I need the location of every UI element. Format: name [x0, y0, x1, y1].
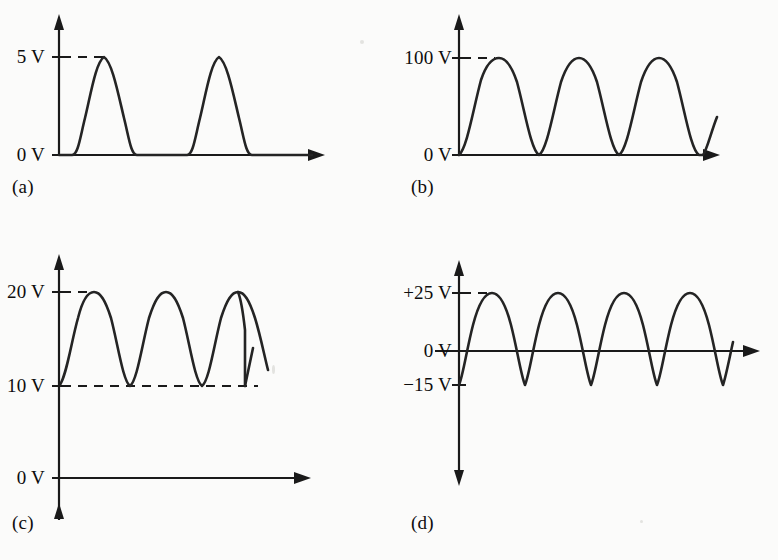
waveform-c-final-drop [238, 292, 245, 386]
scan-speck [640, 520, 643, 523]
panel-c-plot [0, 250, 389, 560]
axis-label-0v-d: 0 V [332, 340, 452, 362]
scan-speck [360, 40, 364, 44]
panel-b-axes [452, 14, 720, 161]
waveform-a [59, 57, 312, 155]
y-axis-arrow-up-d [454, 260, 464, 276]
panel-d: +25 V 0 V −15 V (d) [389, 250, 778, 530]
axis-label-0v-c: 0 V [0, 467, 45, 489]
y-axis-arrow-down-d [454, 470, 464, 486]
panel-b-plot [389, 0, 778, 280]
axis-label-10v-c: 10 V [0, 375, 45, 397]
panel-c: 20 V 10 V 0 V (c) [0, 250, 389, 530]
y-axis-arrow-up-b [454, 14, 464, 30]
panel-caption-c: (c) [12, 512, 34, 534]
x-axis-arrow-right-d [743, 345, 760, 357]
waveform-c [59, 292, 268, 386]
waveform-d [459, 293, 733, 385]
panel-c-axes [52, 292, 311, 520]
panel-caption-d: (d) [411, 512, 434, 534]
scan-speck [272, 365, 275, 374]
waveform-b [459, 58, 717, 155]
y-axis-arrow-up-a [54, 14, 64, 30]
axis-label-20v-c: 20 V [0, 281, 45, 303]
axis-label-0v-a: 0 V [0, 144, 45, 166]
figure-canvas: 5 V 0 V (a) 100 V 0 V (b) [0, 0, 778, 560]
panel-caption-b: (b) [411, 176, 434, 198]
panel-b: 100 V 0 V (b) [389, 0, 778, 280]
axis-label-plus25v-d: +25 V [332, 282, 452, 304]
axis-label-5v-a: 5 V [0, 46, 45, 68]
x-axis-arrow-right-c [294, 472, 311, 484]
y-axis-arrow-up-c [54, 503, 64, 519]
axis-label-100v-b: 100 V [342, 47, 452, 69]
panel-a-plot [0, 0, 389, 280]
axis-label-minus15v-d: −15 V [332, 374, 452, 396]
panel-a: 5 V 0 V (a) [0, 0, 389, 280]
axis-label-0v-b: 0 V [342, 144, 452, 166]
panel-caption-a: (a) [12, 176, 34, 198]
y-axis-arrow-up-c2 [54, 254, 64, 270]
